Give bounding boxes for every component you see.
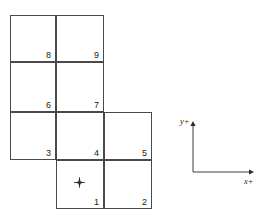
axis-x-label: x+ [244,176,254,186]
grid-cell[interactable]: 4 [56,112,104,160]
grid-cell[interactable]: 9 [56,15,104,62]
cell-label: 5 [142,148,147,158]
cell-label: 8 [46,50,51,60]
grid-cell[interactable]: 7 [56,62,104,112]
grid-cell[interactable]: 3 [10,112,56,160]
cell-label: 6 [46,100,51,110]
axis-indicator: y+ x+ [181,113,260,182]
grid-cell[interactable]: 6 [10,62,56,112]
grid-cell[interactable]: 5 [104,112,152,160]
axis-y-label: y+ [180,116,190,126]
diagram-canvas: 8 9 6 7 3 4 5 1 2 y+ x+ [0,0,272,223]
cell-label: 7 [94,100,99,110]
cell-label: 1 [94,197,99,207]
cell-label: 9 [94,50,99,60]
grid-cell[interactable]: 8 [10,15,56,62]
origin-point-icon [74,177,85,188]
cell-label: 3 [46,148,51,158]
cell-label: 2 [142,197,147,207]
cell-label: 4 [94,148,99,158]
grid-cell[interactable]: 2 [104,160,152,209]
axis-lines-icon [181,113,260,178]
